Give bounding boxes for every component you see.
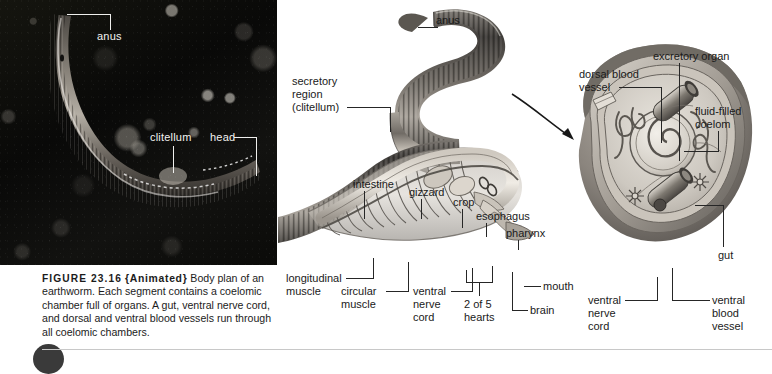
- leader-cs-vbv-h: [672, 300, 710, 301]
- label-cs-vbv-line3: vessel: [712, 320, 743, 333]
- photo-label-head: head: [210, 131, 235, 143]
- leader-brain-v: [512, 272, 513, 310]
- leader-cs-vnc-h: [625, 300, 658, 301]
- label-dorsal-bv-line1: dorsal blood: [579, 68, 639, 81]
- label-coelom-line2: coelom: [695, 118, 730, 131]
- leader-anus: [418, 27, 438, 28]
- leader-gizzard: [421, 199, 422, 219]
- leader-coelom-v: [718, 131, 719, 151]
- label-anus: anus: [436, 14, 460, 27]
- leader-circular-v: [408, 262, 409, 291]
- label-cs-vnc-line2: nerve: [588, 307, 616, 320]
- leader-gut-v: [723, 205, 724, 247]
- label-secretory-region-line1: secretory: [292, 75, 337, 88]
- leader-mouth: [524, 286, 541, 287]
- label-vnc-line1: ventral: [413, 285, 446, 298]
- footer-divider: [42, 349, 772, 350]
- leader-crop: [462, 209, 463, 228]
- leader-dorsal-bv-h: [619, 87, 662, 88]
- label-intestine: intestine: [353, 178, 394, 191]
- label-cs-vnc-line3: cord: [588, 320, 609, 333]
- leader-longitudinal-h: [346, 278, 374, 279]
- leader-brain-h: [512, 310, 528, 311]
- leader-secretory-h: [347, 107, 391, 108]
- label-vnc-line2: nerve: [413, 298, 441, 311]
- label-coelom-line1: fluid-filled: [695, 105, 741, 118]
- photo-leader-anus-h: [67, 14, 111, 15]
- leader-hearts-bracket: [466, 282, 493, 283]
- label-secretory-region-line3: (clitellum): [292, 101, 339, 114]
- leader-cs-vbv-v: [672, 268, 673, 300]
- label-cs-vbv-line1: ventral: [712, 294, 745, 307]
- leader-esophagus: [486, 223, 487, 237]
- photo-worm-shape: [0, 0, 277, 265]
- label-pharynx: pharynx: [506, 227, 545, 240]
- photo-label-anus: anus: [97, 30, 122, 42]
- photo-leader-head-v: [256, 137, 257, 176]
- leader-pharynx: [518, 240, 519, 250]
- cross-section-drawing: [555, 0, 772, 275]
- label-circular-muscle-line1: circular: [341, 285, 376, 298]
- label-mouth: mouth: [543, 280, 574, 293]
- figure-number: FIGURE 23.16: [42, 273, 122, 284]
- label-esophagus: esophagus: [476, 210, 530, 223]
- photo-leader-clitellum: [173, 146, 174, 173]
- label-longitudinal-muscle-line1: longitudinal: [286, 272, 342, 285]
- label-gizzard: gizzard: [409, 186, 444, 199]
- label-secretory-region-line2: region: [292, 88, 323, 101]
- label-gut: gut: [718, 249, 733, 262]
- label-hearts-line1: 2 of 5: [464, 298, 492, 311]
- label-excretory-organ: excretory organ: [653, 50, 729, 63]
- photo-label-clitellum: clitellum: [150, 131, 192, 143]
- leader-gut-h: [695, 205, 724, 206]
- photo-leader-head-h: [234, 137, 257, 138]
- leader-vnc-h: [451, 291, 473, 292]
- label-cs-vnc-line1: ventral: [588, 294, 621, 307]
- label-hearts-line2: hearts: [464, 311, 495, 324]
- leader-cs-vnc-v: [657, 277, 658, 300]
- leader-hearts-stem: [479, 282, 480, 296]
- label-circular-muscle-line2: muscle: [341, 298, 376, 311]
- leader-excretory-organ: [679, 63, 680, 161]
- label-dorsal-bv-line2: vessel: [579, 81, 610, 94]
- figure-caption: FIGURE 23.16 {Animated} Body plan of an …: [42, 272, 274, 339]
- label-cs-vbv-line2: blood: [712, 307, 739, 320]
- leader-hearts-right: [492, 266, 493, 282]
- label-brain: brain: [530, 304, 554, 317]
- label-crop: crop: [453, 196, 474, 209]
- label-longitudinal-muscle-line2: muscle: [286, 285, 321, 298]
- figure-animated-tag: {Animated}: [125, 273, 187, 284]
- label-vnc-line3: cord: [413, 311, 434, 324]
- cross-section-illustration: excretory organ dorsal blood vessel flui…: [555, 0, 772, 275]
- leader-dorsal-bv-v: [661, 87, 662, 143]
- leader-secretory-v: [390, 107, 391, 132]
- leader-hearts-left: [466, 270, 467, 282]
- leader-vnc-v: [472, 268, 473, 291]
- photo-leader-anus-v: [110, 14, 111, 30]
- leader-coelom-h: [684, 151, 719, 152]
- earthworm-photograph: anus clitellum head: [0, 0, 277, 265]
- leader-circular-h: [386, 291, 409, 292]
- leader-intestine: [364, 191, 365, 219]
- leader-longitudinal-v: [373, 258, 374, 278]
